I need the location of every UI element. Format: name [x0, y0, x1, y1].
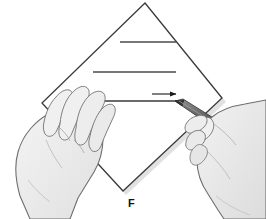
figure-illustration [0, 0, 266, 219]
figure-container: F [0, 0, 266, 219]
figure-caption-label: F [128, 197, 135, 209]
